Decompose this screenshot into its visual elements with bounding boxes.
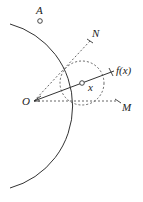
label-x: x [87,81,93,93]
label-fx: f(x) [116,64,132,77]
outer-arc [10,24,73,188]
tick-N [87,39,93,43]
point-A [38,19,43,24]
label-N: N [91,27,100,39]
label-M: M [121,101,132,113]
geometry-diagram: A N f(x) x O M [0,0,143,202]
line-O-fx [34,71,114,101]
line-O-N [34,41,90,101]
point-x [80,81,85,86]
label-A: A [35,4,43,16]
label-O: O [22,95,30,107]
